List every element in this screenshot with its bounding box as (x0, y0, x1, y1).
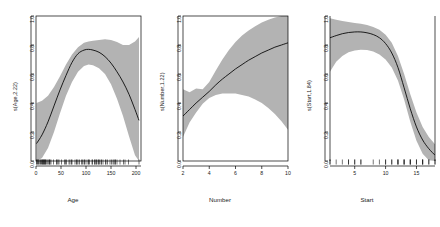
x-tick-label: 8 (252, 170, 272, 176)
y-tick-label: 0.2 (323, 132, 329, 139)
y-tick-label: 0.4 (176, 103, 182, 110)
y-tick-label: 1.0 (323, 16, 329, 23)
x-tick-label: 0 (26, 170, 46, 176)
y-tick-label: 0.6 (176, 74, 182, 81)
x-axis-label-number: Number (147, 196, 293, 203)
x-tick-label: 150 (101, 170, 121, 176)
y-tick-label: 0.0 (176, 161, 182, 168)
y-tick-label: 0.6 (323, 74, 329, 81)
x-tick-label: 100 (76, 170, 96, 176)
y-tick-label: 0.4 (29, 103, 35, 110)
x-tick-label: 4 (199, 170, 219, 176)
panel-number: s(Number,1.22) Number 0.00.20.40.60.81.0… (147, 0, 293, 227)
y-tick-label: 0.8 (323, 45, 329, 52)
y-tick-label: 0.2 (176, 132, 182, 139)
x-tick-label: 2 (173, 170, 193, 176)
y-tick-label: 0.6 (29, 74, 35, 81)
y-tick-label: 0.0 (323, 161, 329, 168)
panel-age: s(Age,2.22) Age 0.00.20.40.60.81.0050100… (0, 0, 146, 227)
y-axis-label-number: s(Number,1.22) (159, 72, 165, 111)
y-tick-label: 1.0 (176, 16, 182, 23)
y-tick-label: 1.0 (29, 16, 35, 23)
y-tick-label: 0.4 (323, 103, 329, 110)
x-tick-label: 6 (226, 170, 246, 176)
panel-start: s(Start,1.84) Start 0.00.20.40.60.81.051… (294, 0, 440, 227)
x-tick-label: 10 (376, 170, 396, 176)
x-tick-label: 50 (51, 170, 71, 176)
x-tick-label: 200 (126, 170, 146, 176)
plot-area-number (147, 0, 293, 227)
x-axis-label-age: Age (0, 196, 146, 203)
y-axis-label-start: s(Start,1.84) (306, 80, 312, 111)
x-tick-label: 5 (345, 170, 365, 176)
y-tick-label: 0.2 (29, 132, 35, 139)
plot-area-age (0, 0, 146, 227)
x-tick-label: 15 (406, 170, 426, 176)
x-axis-label-start: Start (294, 196, 440, 203)
plot-area-start (294, 0, 440, 227)
y-tick-label: 0.8 (176, 45, 182, 52)
y-axis-label-age: s(Age,2.22) (12, 82, 18, 111)
y-tick-label: 0.0 (29, 161, 35, 168)
gam-partial-effect-figure: s(Age,2.22) Age 0.00.20.40.60.81.0050100… (0, 0, 440, 227)
y-tick-label: 0.8 (29, 45, 35, 52)
